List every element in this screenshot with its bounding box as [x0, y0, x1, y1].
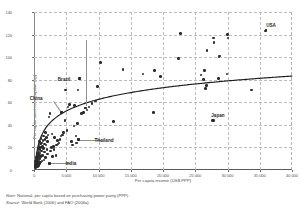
source-prefix: Source:: [6, 200, 20, 205]
annotation-thailand: Thailand: [95, 138, 114, 143]
annotation-brazil: Brazil: [58, 77, 71, 82]
x-tick-mark: [228, 170, 229, 172]
y-tick-mark: [32, 147, 34, 148]
y-tick-label: 80: [8, 77, 12, 82]
note-line: Note: National, per capita based on purc…: [6, 193, 129, 198]
y-tick-label: 0: [10, 168, 12, 173]
y-tick-mark: [32, 80, 34, 81]
y-tick-label: 100: [5, 55, 12, 60]
y-tick-label: 40: [8, 122, 12, 127]
y-tick-mark: [32, 102, 34, 103]
annotation-china: China: [30, 96, 43, 101]
x-tick-mark: [163, 170, 164, 172]
y-tick-mark: [32, 12, 34, 13]
source-line: Source: World Bank (2006) and FAO (2006a…: [6, 200, 90, 205]
x-tick-mark: [66, 170, 67, 172]
y-tick-mark: [32, 35, 34, 36]
source-text: World Bank (2006) and FAO (2006a).: [20, 200, 90, 205]
annotation-japan: Japan: [211, 113, 224, 118]
y-tick-label: 140: [5, 10, 12, 15]
x-tick-mark: [260, 170, 261, 172]
x-axis-title: Per capita income (US$ PPP): [34, 178, 292, 183]
x-tick-mark: [34, 170, 35, 172]
plot-area: USAJapanRussianFederationBrazilChinaThai…: [34, 12, 292, 170]
y-tick-label: 60: [8, 100, 12, 105]
x-tick-mark: [195, 170, 196, 172]
x-tick-mark: [99, 170, 100, 172]
figure-container: Per capita meat consumption (kg) USAJapa…: [0, 0, 307, 214]
x-tick-mark: [131, 170, 132, 172]
note-prefix: Note:: [6, 193, 16, 198]
annotation-usa: USA: [266, 23, 276, 28]
y-tick-mark: [32, 125, 34, 126]
y-tick-label: 20: [8, 145, 12, 150]
trendline: [34, 12, 292, 170]
y-tick-label: 120: [5, 32, 12, 37]
note-text: National, per capita based on purchasing…: [16, 193, 129, 198]
y-tick-mark: [32, 57, 34, 58]
x-tick-mark: [292, 170, 293, 172]
annotation-india: India: [65, 161, 76, 166]
